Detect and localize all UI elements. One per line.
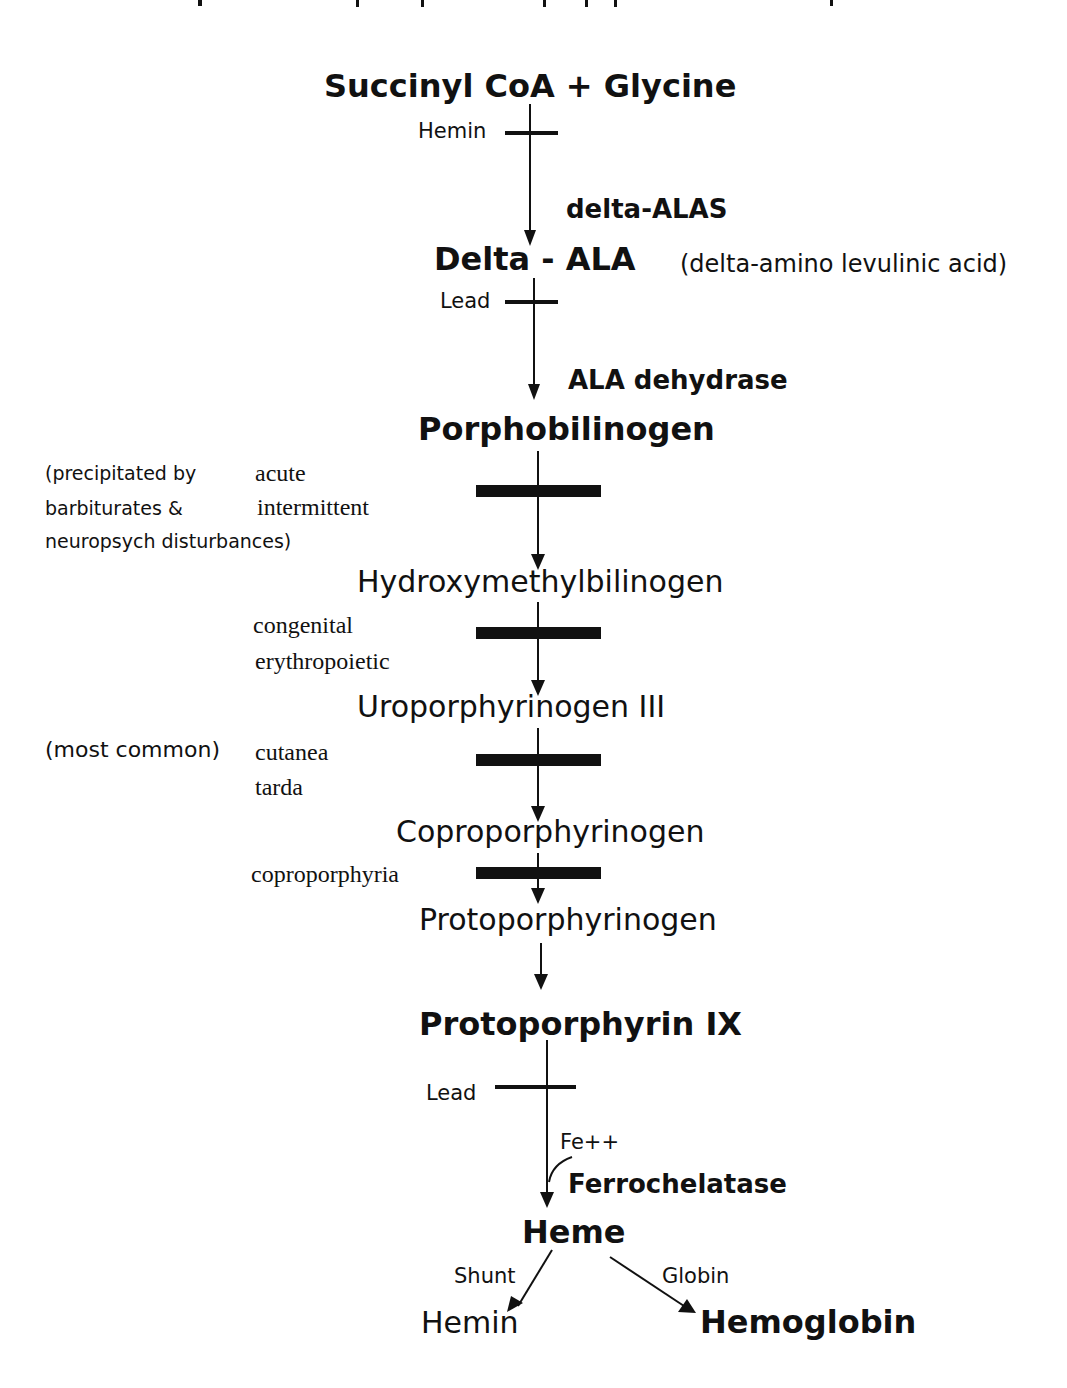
product-hemin: Hemin [421, 1308, 519, 1338]
aip-note-line-2: barbiturates & [45, 499, 183, 518]
substrate-heme: Heme [522, 1216, 626, 1248]
porphyria-cep-line-1: congenital [253, 613, 353, 637]
heme-synthesis-diagram: Succinyl CoA + Glycine Delta - ALA (delt… [0, 0, 1067, 1388]
porphyria-aip-line-1: acute [255, 461, 306, 485]
arrowhead-icon [540, 1192, 554, 1208]
block-bar-cp [476, 867, 601, 879]
product-hemoglobin: Hemoglobin [700, 1306, 916, 1338]
substrate-porphobilinogen: Porphobilinogen [418, 413, 715, 445]
porphyria-pct-line-1: cutanea [255, 740, 328, 764]
porphyria-pct-line-2: tarda [255, 775, 303, 799]
inhibitor-lead-1: Lead [440, 291, 490, 312]
aip-note-line-3: neuropsych disturbances) [45, 532, 291, 551]
clipped-title-descenders [198, 0, 833, 7]
substrate-hydroxymethylbilinogen: Hydroxymethylbilinogen [357, 567, 723, 597]
branch-shunt: Shunt [454, 1266, 516, 1287]
substrate-coproporphyrinogen: Coproporphyrinogen [396, 817, 704, 847]
branch-globin: Globin [662, 1266, 729, 1287]
porphyria-coproporphyria: coproporphyria [251, 862, 399, 886]
pct-note: (most common) [45, 739, 220, 761]
enzyme-ferrochelatase: Ferrochelatase [568, 1171, 787, 1197]
block-bar-pct [476, 754, 601, 766]
substrate-protoporphyrin-ix: Protoporphyrin IX [419, 1008, 742, 1040]
enzyme-ala-dehydrase: ALA dehydrase [568, 367, 788, 393]
arrowhead-icon [528, 384, 540, 400]
arrowhead-icon [678, 1299, 696, 1313]
substrate-succinyl-coa-glycine: Succinyl CoA + Glycine [324, 70, 736, 102]
aip-note-line-1: (precipitated by [45, 464, 196, 483]
block-bar-cep [476, 627, 601, 639]
substrate-protoporphyrinogen: Protoporphyrinogen [419, 905, 717, 935]
substrate-delta-ala: Delta - ALA [434, 243, 636, 275]
porphyria-cep-line-2: erythropoietic [255, 649, 390, 673]
porphyria-aip-line-2: intermittent [257, 495, 369, 519]
inhibitor-hemin: Hemin [418, 121, 486, 142]
block-bar-aip [476, 485, 601, 497]
cofactor-fe: Fe++ [560, 1132, 619, 1153]
enzyme-delta-alas: delta-ALAS [566, 196, 727, 222]
substrate-uroporphyrinogen-iii: Uroporphyrinogen III [357, 692, 665, 722]
arrowhead-icon [534, 974, 548, 990]
inhibitor-lead-2: Lead [426, 1083, 476, 1104]
delta-ala-expansion: (delta-amino levulinic acid) [680, 252, 1007, 276]
